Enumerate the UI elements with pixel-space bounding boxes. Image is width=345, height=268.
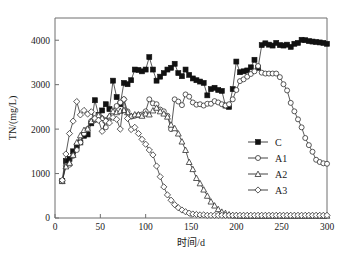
data-point [285,88,290,93]
legend-label: A1 [275,153,287,164]
chart-figure: 01000200030004000050100150200250300 CA1A… [0,0,345,268]
data-point [179,103,184,108]
data-point [292,109,297,114]
data-point [187,94,192,99]
x-tick-label: 0 [53,222,58,232]
data-point [252,69,257,74]
legend-label: C [275,137,282,148]
y-tick-label: 3000 [31,80,50,90]
y-tick-label: 2000 [31,125,50,135]
data-point [230,97,235,102]
data-point [325,41,330,46]
data-point [248,65,253,70]
data-point [147,97,152,102]
data-point [111,78,116,83]
legend-marker-filled-square [256,140,261,145]
legend-label: A3 [275,185,287,196]
x-tick-label: 200 [229,222,244,232]
data-point [299,125,304,130]
data-point [92,98,97,103]
data-point [303,136,308,141]
data-point [129,78,134,83]
data-point [306,143,311,148]
data-point [100,108,105,113]
data-point [234,59,239,64]
data-point [234,88,239,93]
data-point [281,82,286,87]
data-point [103,102,108,107]
legend-marker-open-circle [256,156,261,161]
data-point [114,95,119,100]
data-point [201,80,206,85]
data-point [325,161,330,166]
y-tick-label: 0 [45,213,50,223]
data-point [277,75,282,80]
x-tick-label: 50 [96,222,106,232]
data-point [219,88,224,93]
data-point [147,55,152,60]
data-point [205,93,210,98]
data-point [252,57,257,62]
data-point [183,67,188,72]
data-point [150,67,155,72]
x-tick-label: 100 [139,222,154,232]
data-point [227,102,232,107]
data-point [179,74,184,79]
x-axis-title: 时间/d [177,236,205,248]
data-point [310,149,315,154]
x-tick-label: 250 [275,222,290,232]
data-point [288,100,293,105]
y-tick-label: 4000 [31,36,50,46]
x-tick-label: 150 [184,222,199,232]
y-tick-label: 1000 [31,169,50,179]
data-point [256,64,261,69]
data-point [172,61,177,66]
y-axis-title: TN/(mg/L) [7,96,19,140]
legend-label: A2 [275,169,287,180]
chart-canvas: 01000200030004000050100150200250300 CA1A… [0,0,345,268]
data-point [295,117,300,122]
data-point [143,67,148,72]
x-tick-label: 300 [320,222,335,232]
